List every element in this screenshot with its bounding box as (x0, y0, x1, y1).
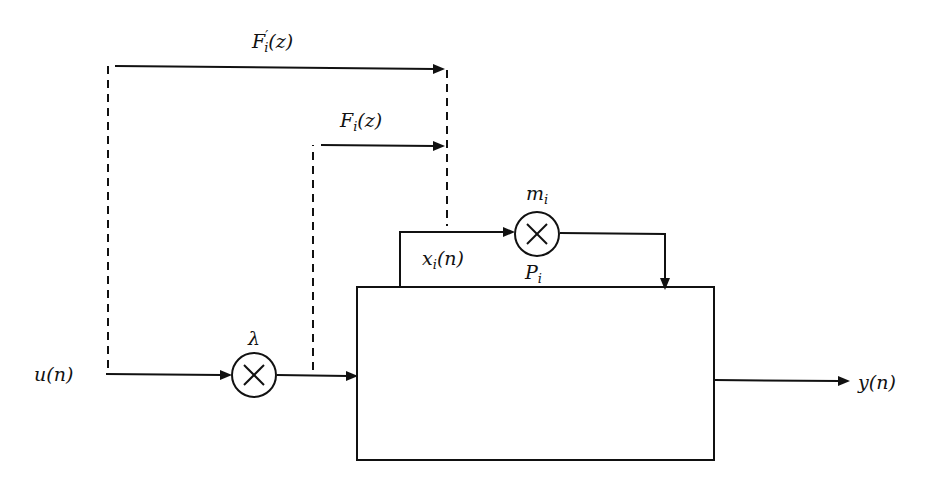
arrow-head-icon (503, 227, 515, 237)
f-arrow-line (321, 145, 435, 146)
f-label: Fi(z) (339, 109, 382, 134)
arrow-head-icon (433, 64, 445, 74)
lambda-to-plant-line (277, 375, 348, 376)
fprime-label: F′i(z) (251, 28, 293, 55)
arrow-head-icon (838, 376, 850, 386)
m-to-plant-line (560, 233, 665, 280)
input-line (106, 374, 222, 375)
lambda-label: λ (247, 327, 260, 349)
xi-label: xi(n) (422, 247, 464, 272)
block-diagram: u(n) λ y(n) mi xi(n) Pi F′i(z) Fi(z) (0, 0, 939, 490)
plant-block (357, 287, 714, 460)
arrow-head-icon (220, 370, 232, 380)
arrow-head-icon (433, 141, 445, 151)
input-label: u(n) (34, 363, 73, 385)
fprime-arrow-line (115, 66, 435, 69)
m-multiplier (515, 212, 559, 256)
arrow-head-icon (660, 278, 670, 290)
plant-label: Pi (524, 261, 542, 286)
m-label: mi (526, 182, 548, 207)
output-line (714, 380, 840, 381)
output-label: y(n) (857, 371, 896, 393)
lambda-multiplier (232, 353, 276, 397)
